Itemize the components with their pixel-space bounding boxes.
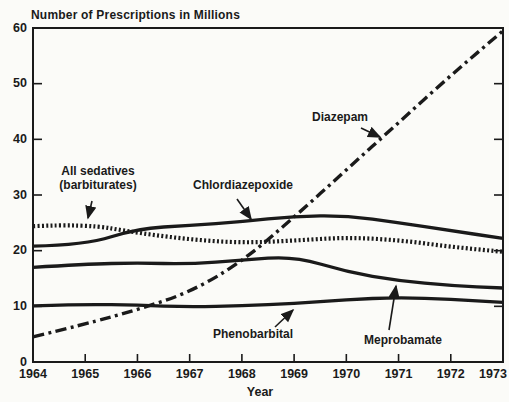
x-tick-label-1970: 1970 — [332, 367, 360, 381]
series-label-diazepam: Diazepam — [312, 111, 368, 125]
y-tick-label-30: 30 — [0, 188, 27, 202]
series-line-meprobamate — [33, 258, 503, 288]
x-tick-label-1967: 1967 — [176, 367, 204, 381]
annotation-arrow-all-sedatives-barbiturates — [88, 201, 92, 218]
series-label-phenobarbital: Phenobarbital — [213, 328, 293, 342]
x-tick-label-1972: 1972 — [437, 367, 465, 381]
x-tick-label-1968: 1968 — [228, 367, 256, 381]
series-label-meprobamate: Meprobamate — [364, 334, 442, 348]
prescriptions-line-chart-figure: Number of Prescriptions in Millions Year… — [0, 0, 509, 402]
x-tick-label-1969: 1969 — [280, 367, 308, 381]
x-tick-label-1971: 1971 — [385, 367, 413, 381]
y-tick-label-10: 10 — [0, 299, 27, 313]
y-tick-label-60: 60 — [0, 21, 27, 35]
series-line-phenobarbital — [33, 298, 503, 307]
annotation-arrow-chlordiazepoxide — [237, 199, 251, 219]
series-label-all-sedatives-barbiturates: All sedatives (barbiturates) — [59, 165, 136, 192]
annotation-arrow-meprobamate — [389, 286, 396, 330]
y-tick-label-50: 50 — [0, 76, 27, 90]
x-tick-label-1966: 1966 — [124, 367, 152, 381]
annotation-arrow-diazepam — [361, 128, 380, 137]
plot-frame — [33, 28, 503, 362]
y-tick-label-20: 20 — [0, 243, 27, 257]
x-axis-title: Year — [247, 385, 273, 399]
series-label-chlordiazepoxide: Chlordiazepoxide — [193, 179, 293, 193]
x-tick-label-1964: 1964 — [19, 367, 47, 381]
x-tick-label-1965: 1965 — [71, 367, 99, 381]
chart-title: Number of Prescriptions in Millions — [31, 8, 240, 22]
x-tick-label-1973: 1973 — [479, 367, 507, 381]
annotation-arrow-phenobarbital — [275, 310, 293, 327]
y-tick-label-40: 40 — [0, 132, 27, 146]
